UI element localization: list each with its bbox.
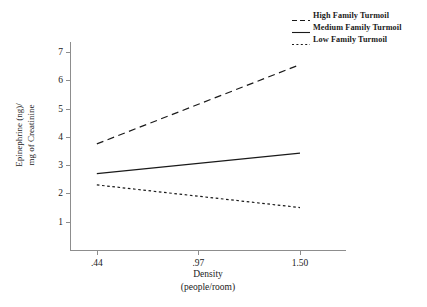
y-tick-label-4: 4 — [49, 131, 63, 144]
y-tick-label-7: 7 — [49, 46, 63, 59]
y-axis-title: Epinephrine (ng)/ mg of Creatinine — [12, 60, 38, 210]
y-tick-label-6: 6 — [49, 74, 63, 87]
chart-figure: High Family Turmoil Medium Family Turmoi… — [0, 0, 427, 307]
y-axis-title-line2: mg of Creatinine — [25, 105, 35, 166]
x-axis-line — [70, 250, 346, 251]
y-tick-label-2: 2 — [49, 187, 63, 200]
legend-item-high: High Family Turmoil — [292, 10, 425, 21]
x-tick-1 — [198, 250, 199, 255]
legend-swatch-long-dash-icon — [292, 11, 310, 20]
y-tick-label-3: 3 — [49, 159, 63, 172]
series-line-high — [97, 65, 300, 144]
x-tick-0 — [97, 250, 98, 255]
x-tick-2 — [300, 250, 301, 255]
x-axis-title-line2: (people/room) — [70, 281, 346, 294]
legend-label-high: High Family Turmoil — [313, 11, 389, 21]
legend-item-medium: Medium Family Turmoil — [292, 22, 425, 33]
y-axis-title-line1: Epinephrine (ng)/ — [14, 103, 24, 167]
series-line-low — [97, 185, 300, 208]
legend-label-medium: Medium Family Turmoil — [313, 23, 402, 33]
legend-swatch-solid-icon — [292, 23, 310, 32]
plot-area: 7654321 .44.971.50 — [70, 42, 346, 250]
series-container — [70, 42, 346, 250]
x-axis-title-line1: Density — [70, 268, 346, 281]
y-tick-label-1: 1 — [49, 216, 63, 229]
series-line-medium — [97, 153, 300, 173]
chart-legend: High Family Turmoil Medium Family Turmoi… — [292, 10, 425, 46]
y-tick-label-5: 5 — [49, 103, 63, 116]
x-axis-title: Density (people/room) — [70, 268, 346, 293]
